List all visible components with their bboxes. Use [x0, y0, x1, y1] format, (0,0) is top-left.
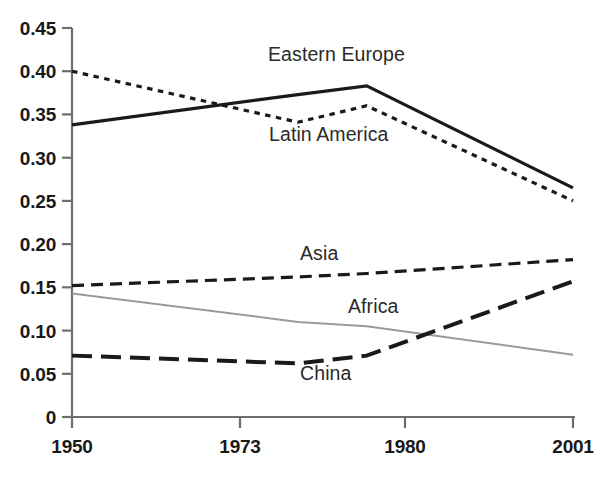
x-tick-label-2001: 2001 — [523, 436, 608, 458]
y-tick-label-0: 0 — [0, 407, 56, 429]
y-tick-label-025: 0.25 — [0, 191, 56, 213]
series-label-latin-america: Latin America — [269, 123, 388, 146]
series-label-china: China — [300, 362, 351, 385]
x-tick-label-1950: 1950 — [22, 436, 122, 458]
y-tick-label-020: 0.20 — [0, 234, 56, 256]
y-tick-label-010: 0.10 — [0, 321, 56, 343]
y-tick-label-030: 0.30 — [0, 148, 56, 170]
y-tick-marks — [62, 28, 72, 417]
series-line-africa — [72, 293, 573, 354]
series-group — [72, 71, 573, 363]
series-label-africa: Africa — [348, 295, 398, 318]
series-label-eastern-europe: Eastern Europe — [268, 43, 405, 66]
line-chart: 0.45 0.40 0.35 0.30 0.25 0.20 0.15 0.10 … — [0, 0, 608, 484]
y-tick-label-005: 0.05 — [0, 364, 56, 386]
y-tick-label-040: 0.40 — [0, 61, 56, 83]
y-tick-label-045: 0.45 — [0, 18, 56, 40]
series-label-asia: Asia — [300, 242, 338, 265]
x-tick-label-1980: 1980 — [355, 436, 455, 458]
y-tick-label-035: 0.35 — [0, 104, 56, 126]
x-tick-marks — [72, 417, 573, 428]
y-tick-label-015: 0.15 — [0, 277, 56, 299]
x-tick-label-1973: 1973 — [190, 436, 290, 458]
series-line-china — [72, 281, 573, 363]
